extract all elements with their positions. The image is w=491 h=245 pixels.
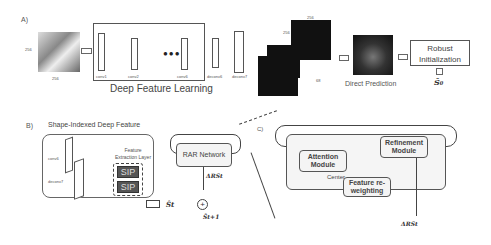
ellipsis-icon: ●●● (163, 49, 181, 58)
heatmap-height-label: 256 (283, 30, 290, 35)
feature-extraction-label: Feature Extraction Layer (113, 147, 153, 161)
arrow-icon (398, 54, 408, 60)
s0-label: Ŝ₀ (434, 77, 443, 87)
panel-c-label: C) (257, 126, 263, 132)
zoom-connector-line (251, 152, 276, 218)
panel-a-label: A) (21, 16, 28, 23)
conv6-block (65, 137, 73, 174)
center-label: Center (327, 174, 345, 180)
arrow-line (203, 167, 204, 190)
conv1-label: conv1 (96, 74, 107, 79)
direct-prediction-image (353, 35, 393, 75)
deconv6-block (212, 38, 219, 68)
attention-module-box: Attention Module (299, 150, 347, 172)
heatmap-width-label: 256 (307, 15, 314, 20)
conv6-block (181, 38, 188, 70)
deconv7-block (74, 158, 84, 200)
rar-network-box: RAR Network (176, 143, 232, 167)
direct-prediction-label: Direct Prediction (345, 80, 396, 87)
arrow-left-icon (146, 200, 160, 208)
input-width-label: 256 (52, 76, 59, 81)
deconv6-label: deconv6 (207, 74, 222, 79)
shape-indexed-title: Shape-Indexed Deep Feature (48, 121, 140, 128)
deep-feature-learning-label: Deep Feature Learning (110, 83, 213, 94)
zoom-connector-line (239, 110, 277, 125)
arrow-icon (81, 48, 92, 54)
input-face-image (38, 32, 80, 72)
deconv7-label: deconv7 (48, 179, 63, 184)
conv1-block (98, 33, 105, 71)
delta-label: ΔRSt (206, 172, 223, 179)
heatmap-1 (258, 56, 298, 96)
deconv7-block (234, 31, 244, 73)
conv6-label: conv6 (48, 156, 59, 161)
arrow-icon (339, 55, 349, 61)
conv2-block (131, 38, 138, 70)
heatmap-depth-label: 68 (316, 78, 320, 83)
conv6-label: conv6 (177, 74, 188, 79)
feature-reweighting-box: Feature re-weighting (343, 177, 391, 197)
deconv7-label: deconv7 (232, 74, 247, 79)
conv2-label: conv2 (128, 74, 139, 79)
sip-block-1: SIP (117, 166, 139, 178)
input-height-label: 256 (25, 47, 32, 52)
arrow-down-icon (436, 68, 443, 75)
deep-feature-learning-box (93, 23, 205, 81)
st-label: Ŝt (166, 200, 174, 209)
arrow-line (416, 158, 417, 216)
refinement-module-box: Refinement Module (380, 136, 428, 158)
plus-node: + (197, 199, 208, 210)
delta-output-label: ΔRSt (401, 220, 418, 227)
robust-initialization-box: Robust Initialization (410, 40, 470, 66)
panel-b-label: B) (26, 122, 33, 129)
st1-label: Ŝt+1 (203, 213, 219, 220)
sip-block-2: SIP (117, 181, 139, 193)
